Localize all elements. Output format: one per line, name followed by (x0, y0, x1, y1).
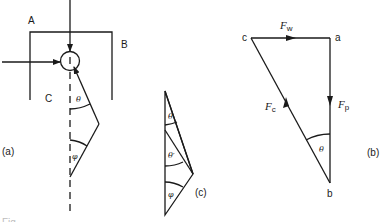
vertex-c: c (242, 32, 247, 43)
Fc-vector (251, 38, 330, 183)
force-diagram: A B C θ φ (a) θ θ′ φ (c) c a b (0, 0, 381, 222)
panel-c-tag: (c) (195, 187, 207, 198)
vertex-b: b (327, 188, 333, 199)
label-A: A (28, 15, 35, 26)
Fw-arrowhead (286, 35, 296, 41)
panel-b-tag: (b) (367, 147, 379, 158)
label-C: C (45, 93, 52, 104)
triangle-c-side (165, 91, 193, 174)
label-theta-a: θ (76, 95, 81, 104)
label-theta-c: θ (168, 112, 173, 121)
label-Fw: Fw (279, 19, 293, 33)
theta-prime-arc-c (165, 162, 183, 166)
phi-arc-c (165, 182, 183, 187)
label-Fc: Fc (264, 100, 276, 114)
theta-arc-c (165, 122, 177, 125)
label-theta-b: θ (319, 145, 324, 154)
label-theta-prime-c: θ′ (168, 151, 175, 160)
theta-arc-b (306, 134, 330, 140)
member-lower (70, 124, 99, 177)
label-phi-a: φ (72, 152, 78, 161)
label-phi-c: φ (168, 190, 174, 199)
box-outline (30, 32, 112, 100)
vertex-a: a (335, 32, 341, 43)
theta-arc (70, 104, 90, 109)
panel-a-tag: (a) (2, 146, 14, 157)
label-Fp: Fp (337, 98, 350, 112)
label-B: B (121, 39, 128, 50)
caption-fragment: Fig. (2, 217, 19, 222)
panel-c: θ θ′ φ (c) (165, 91, 207, 215)
Fp-arrowhead (327, 96, 333, 106)
panel-a: A B C θ φ (a) (2, 0, 128, 214)
panel-b: c a b Fw Fp Fc θ (b) (242, 19, 379, 199)
phi-arc (70, 140, 87, 146)
